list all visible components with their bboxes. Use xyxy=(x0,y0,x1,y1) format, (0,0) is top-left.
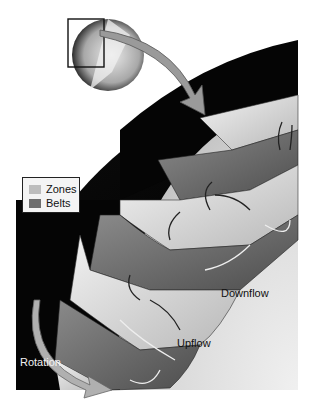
legend-label: Belts xyxy=(46,197,70,209)
legend-item-zones: Zones xyxy=(29,183,77,195)
downflow-label: Downflow xyxy=(221,287,269,299)
legend-label: Zones xyxy=(46,183,77,195)
upflow-label: Upflow xyxy=(177,337,211,349)
belts-swatch xyxy=(29,199,41,208)
jupiter-diagram: Zones Belts Downflow Upflow Rotation xyxy=(0,0,314,405)
zones-swatch xyxy=(29,185,41,194)
legend: Zones Belts xyxy=(22,177,80,213)
legend-item-belts: Belts xyxy=(29,197,70,209)
rotation-label: Rotation xyxy=(20,356,61,368)
